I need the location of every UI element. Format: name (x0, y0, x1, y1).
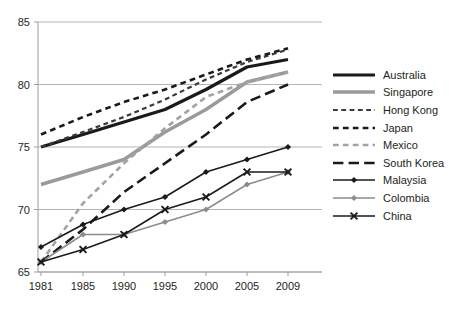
series-line (41, 172, 288, 262)
y-axis-tick-label: 85 (18, 16, 30, 28)
life-expectancy-line-chart: 6570758085 1981198519901995200020052009 … (0, 0, 459, 315)
data-point-marker (38, 244, 44, 250)
legend-swatch-icon (332, 156, 376, 170)
y-axis-tick-label: 65 (18, 266, 30, 278)
legend-label: Hong Kong (383, 104, 438, 116)
legend-swatch-icon (332, 138, 376, 152)
legend-item-singapore[interactable]: Singapore (332, 84, 456, 102)
series-colombia (38, 169, 291, 265)
data-point-marker (285, 144, 291, 150)
legend-item-china[interactable]: China (332, 207, 456, 225)
y-axis-tick-label: 75 (18, 141, 30, 153)
y-axis-tick-labels: 6570758085 (18, 16, 30, 278)
x-axis-tick-label: 2000 (194, 280, 218, 292)
data-point-marker (244, 156, 250, 162)
legend-label: Colombia (383, 192, 429, 204)
data-point-marker (162, 219, 168, 225)
y-axis-tick-label: 70 (18, 204, 30, 216)
legend-item-south-korea[interactable]: South Korea (332, 154, 456, 172)
x-axis-tick-labels: 1981198519901995200020052009 (29, 280, 300, 292)
legend-item-malaysia[interactable]: Malaysia (332, 172, 456, 190)
legend-label: Singapore (383, 86, 433, 98)
x-axis-tick-label: 1995 (153, 280, 177, 292)
legend-swatch-icon (332, 173, 376, 187)
legend-item-mexico[interactable]: Mexico (332, 136, 456, 154)
series-line (41, 172, 288, 262)
legend-label: Australia (383, 69, 426, 81)
legend-item-japan[interactable]: Japan (332, 119, 456, 137)
x-axis-tick-label: 2005 (235, 280, 259, 292)
legend-label: Japan (383, 122, 413, 134)
legend: AustraliaSingaporeHong KongJapanMexicoSo… (332, 66, 456, 224)
legend-swatch-icon (332, 103, 376, 117)
series-malaysia (38, 144, 291, 250)
legend-label: Malaysia (383, 174, 426, 186)
legend-item-hong-kong[interactable]: Hong Kong (332, 101, 456, 119)
legend-label: Mexico (383, 139, 418, 151)
legend-swatch-icon (332, 191, 376, 205)
x-axis-tick-label: 1990 (112, 280, 136, 292)
x-axis-tick-label: 1981 (29, 280, 53, 292)
x-axis-tick-label: 2009 (276, 280, 300, 292)
series-layer (38, 48, 292, 265)
legend-swatch-icon (332, 68, 376, 82)
legend-swatch-icon (332, 121, 376, 135)
legend-item-colombia[interactable]: Colombia (332, 189, 456, 207)
data-point-marker (121, 206, 127, 212)
legend-swatch-icon (332, 85, 376, 99)
x-axis-tick-label: 1985 (71, 280, 95, 292)
legend-label: China (383, 210, 412, 222)
y-axis-tick-label: 80 (18, 79, 30, 91)
legend-item-australia[interactable]: Australia (332, 66, 456, 84)
legend-label: South Korea (383, 157, 444, 169)
legend-swatch-icon (332, 209, 376, 223)
